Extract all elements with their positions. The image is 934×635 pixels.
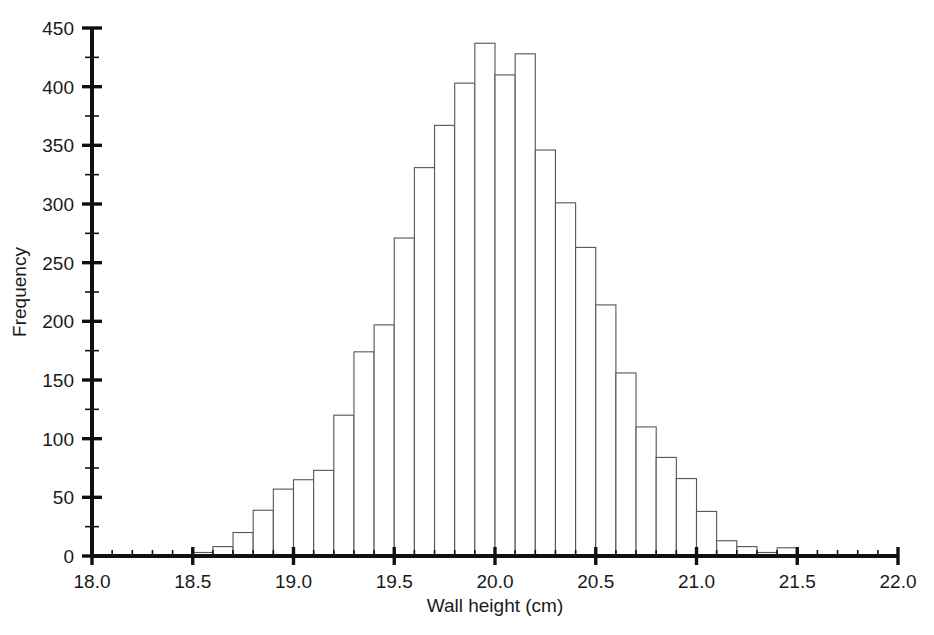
histogram-bar (636, 427, 656, 556)
histogram-bar (334, 415, 354, 556)
histogram-bar (435, 125, 455, 556)
histogram-bar (697, 511, 717, 556)
x-tick-label: 18.0 (74, 571, 111, 592)
histogram-bar (233, 533, 253, 556)
bars-group (193, 43, 798, 556)
histogram-bar (676, 479, 696, 556)
y-tick-label: 400 (42, 77, 74, 98)
histogram-bar (414, 168, 434, 556)
histogram-bar (354, 352, 374, 556)
y-tick-label: 200 (42, 311, 74, 332)
x-axis-tick-labels: 18.018.519.019.520.020.521.021.522.0 (74, 571, 917, 592)
x-tick-label: 19.0 (275, 571, 312, 592)
y-tick-label: 250 (42, 253, 74, 274)
histogram-bar (535, 150, 555, 556)
x-tick-label: 18.5 (174, 571, 211, 592)
y-tick-label: 450 (42, 18, 74, 39)
histogram-bar (555, 203, 575, 556)
histogram-bar (616, 373, 636, 556)
histogram-bar (596, 305, 616, 556)
histogram-bar (656, 457, 676, 556)
x-tick-label: 21.5 (779, 571, 816, 592)
histogram-chart: 18.018.519.019.520.020.521.021.522.0 050… (0, 0, 934, 635)
y-tick-label: 0 (63, 546, 74, 567)
y-axis-tick-labels: 050100150200250300350400450 (42, 18, 74, 567)
y-tick-label: 350 (42, 135, 74, 156)
x-tick-label: 19.5 (376, 571, 413, 592)
chart-canvas: 18.018.519.019.520.020.521.021.522.0 050… (0, 0, 934, 635)
y-tick-label: 50 (53, 487, 74, 508)
histogram-bar (515, 54, 535, 556)
y-tick-label: 150 (42, 370, 74, 391)
x-tick-label: 22.0 (880, 571, 917, 592)
histogram-bar (495, 75, 515, 556)
histogram-bar (314, 470, 334, 556)
x-axis-title: Wall height (cm) (427, 595, 564, 616)
histogram-bar (394, 238, 414, 556)
histogram-bar (294, 480, 314, 556)
histogram-bar (455, 83, 475, 556)
histogram-bar (253, 510, 273, 556)
y-tick-label: 300 (42, 194, 74, 215)
x-tick-label: 20.0 (477, 571, 514, 592)
x-tick-label: 21.0 (678, 571, 715, 592)
histogram-bar (374, 325, 394, 556)
histogram-bar (717, 541, 737, 556)
x-tick-label: 20.5 (577, 571, 614, 592)
histogram-bar (576, 247, 596, 556)
histogram-bar (273, 489, 293, 556)
histogram-bar (475, 43, 495, 556)
y-axis-title: Frequency (9, 247, 30, 337)
y-tick-label: 100 (42, 429, 74, 450)
